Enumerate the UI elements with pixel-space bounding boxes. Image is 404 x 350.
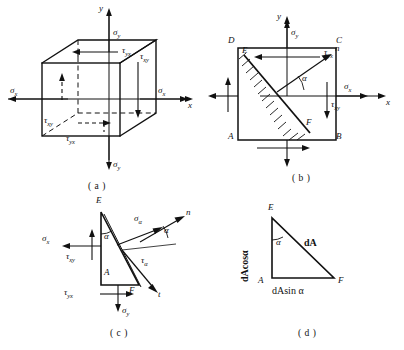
panel-d-corner-A: A	[258, 276, 264, 285]
panel-b-corner-E: E	[242, 46, 248, 55]
tau-yx-bottom-arrowhead-b	[302, 145, 310, 151]
caption-d: ( d )	[298, 328, 316, 338]
panel-d-hypotenuse-label: dA	[304, 238, 317, 248]
tau-xy-arrowhead-c	[89, 229, 95, 237]
caption-b: ( b )	[292, 173, 310, 183]
sigma-y-bottom-arrowhead	[106, 162, 112, 170]
panel-c-tau-xy-label: τxy	[66, 252, 75, 263]
tau-xy-left-arrowhead	[59, 73, 65, 81]
panel-a-tau-yx-bottom-label: τyx	[66, 134, 75, 145]
sigma-y-arrowhead-c	[115, 304, 121, 312]
y-axis-arrowhead	[106, 8, 112, 16]
tau-yx-top-arrow	[78, 52, 118, 57]
normal-n-arrow-c	[140, 220, 178, 242]
panel-c-sigma-x-label: σx	[42, 234, 49, 245]
sigma-x-right-arrowhead-b	[360, 93, 368, 99]
panel-b-sigma-y-label: σy	[291, 28, 298, 39]
tau-xy-left-arrowhead-b	[225, 77, 231, 85]
panel-a-axis-x-label: x	[188, 101, 192, 110]
panel-d-corner-E: E	[268, 203, 274, 212]
panel-b-figure: y x σy σx τyx τxy n α D C E A B F	[200, 0, 404, 180]
panel-a-sigma-x-right-label: σx	[158, 86, 165, 97]
caption-c: ( c )	[110, 328, 128, 338]
panel-c-sigma-y-label: σy	[122, 306, 129, 317]
panel-c-corner-A: A	[104, 268, 110, 277]
tau-yx-top-arrowhead	[72, 49, 80, 55]
tau-yx-top-arrowhead-b	[254, 54, 262, 60]
panel-a-figure: y x σy σy σx σx τyx τxy τxy τyx	[0, 0, 200, 180]
cube-hidden-edges	[42, 40, 156, 136]
panel-c-corner-F: F	[129, 286, 135, 295]
panel-c-drawing	[0, 190, 210, 335]
cube-solid-edges	[42, 40, 156, 136]
panel-a-drawing	[0, 0, 200, 180]
panel-b-sigma-x-label: σx	[344, 82, 351, 93]
sigma-alpha-arrowhead-c	[153, 227, 164, 234]
panel-a-tau-xy-left-label: τxy	[44, 116, 53, 127]
sigma-x-arrowhead-c	[62, 243, 70, 249]
panel-c-sigma-alpha-label: σα	[134, 214, 142, 225]
panel-a-sigma-y-bottom-label: σy	[113, 160, 120, 171]
panel-d-vertical-side-label: dAcosα	[240, 250, 250, 282]
panel-c-tangent-label: t	[158, 290, 161, 299]
tau-yx-bottom-arrow	[78, 123, 104, 132]
panel-c-alpha-outer-label: α	[164, 226, 169, 235]
panel-c-tau-yx-label: τyx	[64, 288, 73, 299]
panel-c-tau-alpha-label: τα	[141, 256, 148, 267]
panel-b-corner-D: D	[228, 36, 235, 45]
panel-b-corner-A: A	[228, 132, 234, 141]
sigma-alpha-arrow-c	[117, 230, 156, 245]
tau-xy-right-arrowhead-b	[324, 111, 330, 119]
panel-a-tau-yx-top-label: τyx	[122, 46, 131, 57]
tau-alpha-arrowhead-c	[148, 284, 158, 293]
panel-a-tau-xy-right-label: τxy	[140, 52, 149, 63]
panel-c-corner-E: E	[96, 196, 102, 205]
panel-b-x-arrowhead	[378, 93, 386, 99]
tau-yx-bottom-arrowhead	[103, 120, 111, 126]
panel-c-figure: E A F σx τxy τyx σy σα τα n t α α	[0, 190, 210, 335]
sigma-x-left-arrowhead-b	[208, 93, 216, 99]
panel-b-drawing	[200, 0, 404, 180]
sigma-y-bottom-arrowhead-b	[284, 159, 290, 167]
panel-b-tau-yx-label: τyx	[324, 48, 333, 59]
alpha-reference-line-c	[122, 244, 176, 250]
panel-b-corner-F: F	[306, 118, 312, 127]
panel-d-horizontal-side-label: dAsin α	[272, 286, 304, 296]
panel-a-axis-y-label: y	[99, 4, 103, 13]
panel-a-sigma-y-top-label: σy	[113, 28, 120, 39]
tau-xy-right-arrowhead	[135, 110, 141, 118]
panel-c-alpha-inner-label: α	[104, 232, 109, 241]
panel-d-alpha-label: α	[276, 238, 281, 247]
panel-b-normal-label: n	[335, 44, 340, 53]
panel-d-figure: E A F dAcosα dA dAsin α α	[210, 190, 404, 335]
panel-c-normal-label: n	[186, 208, 191, 217]
panel-b-tau-xy-label: τxy	[331, 100, 340, 111]
panel-b-axis-x-label: x	[386, 98, 390, 107]
inclined-plane-EF	[244, 55, 310, 133]
panel-b-corner-C: C	[336, 36, 342, 45]
panel-b-alpha-label: α	[302, 74, 307, 83]
normal-n-arrowhead-c	[175, 216, 186, 223]
panel-b-corner-B: B	[336, 132, 342, 141]
panel-b-axis-y-label: y	[277, 12, 281, 21]
panel-d-corner-F: F	[338, 276, 344, 285]
panel-a-sigma-x-left-label: σx	[10, 86, 17, 97]
geometry-triangle-d	[272, 218, 334, 278]
